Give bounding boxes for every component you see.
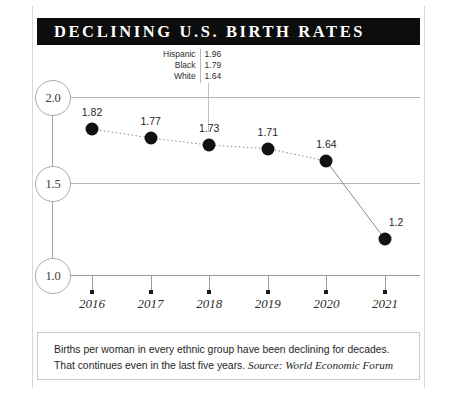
page-title: DECLINING U.S. BIRTH RATES	[54, 22, 365, 42]
axis-baseline-1-0	[62, 275, 420, 276]
x-axis-tick	[326, 275, 327, 292]
x-axis-label: 2016	[79, 296, 105, 312]
x-axis-tick-dot	[266, 290, 270, 294]
y-tick-1-0: 1.0	[35, 258, 71, 294]
x-axis-label: 2020	[313, 296, 339, 312]
annotation-label: Black	[163, 60, 196, 71]
x-axis-tick-dot	[149, 290, 153, 294]
title-banner: DECLINING U.S. BIRTH RATES	[37, 18, 420, 45]
x-axis-tick	[151, 275, 152, 292]
annotation-value: 1.79	[205, 60, 222, 71]
data-point	[379, 233, 392, 246]
x-axis-label: 2019	[255, 296, 281, 312]
annotation-labels: Hispanic Black White	[163, 49, 200, 83]
annotation-values: 1.96 1.79 1.64	[201, 49, 222, 83]
annotation-label: Hispanic	[163, 49, 196, 60]
annotation-label: White	[163, 71, 196, 82]
frame-border-right	[424, 6, 425, 388]
x-axis-tick-dot	[207, 290, 211, 294]
x-axis-tick-dot	[90, 290, 94, 294]
x-axis-tick-dot	[324, 290, 328, 294]
x-axis-tick	[209, 275, 210, 292]
data-point-label: 1.73	[199, 122, 219, 134]
frame-border-left	[32, 6, 33, 388]
x-axis-tick-dot	[383, 290, 387, 294]
data-point-label: 1.64	[316, 138, 336, 150]
annotation-value: 1.96	[205, 49, 222, 60]
x-axis-label: 2017	[138, 296, 164, 312]
x-axis-label: 2021	[372, 296, 398, 312]
data-point-label: 1.82	[82, 106, 102, 118]
data-point-label: 1.71	[258, 126, 278, 138]
gridline-1-5	[62, 183, 420, 184]
x-axis-tick	[385, 275, 386, 292]
data-point	[144, 131, 157, 144]
data-point-label: 1.2	[389, 216, 404, 228]
annotation-table: Hispanic Black White 1.96 1.79 1.64	[163, 49, 221, 83]
x-axis-label: 2018	[196, 296, 222, 312]
data-point	[203, 139, 216, 152]
y-tick-2-0: 2.0	[35, 80, 71, 116]
data-line-final-segment	[326, 161, 385, 239]
y-tick-1-5: 1.5	[35, 166, 71, 202]
gridline-2-0	[62, 97, 420, 98]
footer-line-1: Births per woman in every ethnic group h…	[54, 344, 390, 355]
annotation-value: 1.64	[205, 71, 222, 82]
data-point	[261, 142, 274, 155]
data-point	[320, 155, 333, 168]
x-axis-tick	[268, 275, 269, 292]
chart-page: DECLINING U.S. BIRTH RATES Hispanic Blac…	[0, 0, 456, 394]
x-axis-tick	[92, 275, 93, 292]
footer-caption-box: Births per woman in every ethnic group h…	[37, 332, 420, 380]
footer-line-2: That continues even in the last five yea…	[54, 360, 245, 371]
footer-source: Source: World Economic Forum	[248, 359, 393, 371]
footer-caption: Births per woman in every ethnic group h…	[54, 343, 410, 373]
data-point-label: 1.77	[140, 115, 160, 127]
data-point	[86, 123, 99, 136]
